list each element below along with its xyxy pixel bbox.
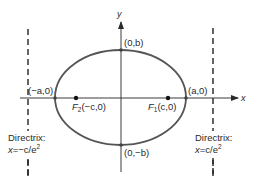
- left-directrix-equation: x=−c/e2: [7, 143, 41, 155]
- vertex-top-label: (0,b): [124, 37, 144, 48]
- vertex-right-point: [184, 96, 188, 100]
- vertex-right-label: (a,0): [188, 85, 208, 96]
- focus-f1-point: [166, 96, 170, 100]
- vertex-left-label: (−a,0): [28, 85, 53, 96]
- focus-f1-label: F1(c,0): [148, 101, 176, 113]
- left-directrix-title: Directrix:: [8, 132, 45, 143]
- focus-f2-label: F2(−c,0): [72, 101, 106, 113]
- y-axis-label: y: [116, 9, 122, 19]
- vertex-bottom-point: [119, 143, 123, 147]
- vertex-left-point: [53, 96, 57, 100]
- vertex-bottom-label: (0,−b): [124, 147, 149, 158]
- vertex-top-point: [119, 48, 123, 52]
- right-directrix-title: Directrix:: [195, 132, 232, 143]
- right-directrix-equation: x=c/e2: [194, 143, 222, 155]
- focus-f2-point: [74, 96, 78, 100]
- ellipse-diagram: y x (0,b) (0,−b) (−a,0) (a,0) F2(−c,0) F…: [0, 0, 253, 183]
- x-axis-label: x: [240, 93, 246, 103]
